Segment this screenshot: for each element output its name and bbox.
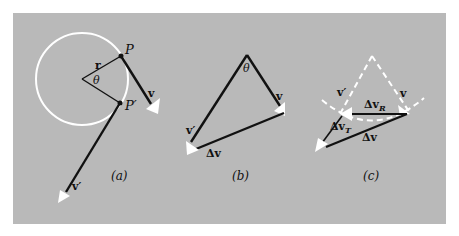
label-P: P [124, 42, 134, 57]
label-P-prime: P′ [124, 98, 137, 113]
vector-v-prime-b [191, 55, 247, 142]
panel-b: θ v v′ Δv (b) [185, 55, 285, 183]
label-theta-b: θ [243, 62, 250, 75]
arrowhead-delta-v-T [315, 138, 328, 152]
label-v-c: v [399, 87, 407, 100]
kinematics-figure: P P′ r θ v v′ (a) θ v v′ Δv (b) [0, 0, 459, 236]
label-theta-a: θ [93, 74, 100, 87]
label-v-a: v [147, 87, 155, 100]
label-v-prime-c: v′ [336, 86, 346, 99]
caption-a: (a) [111, 169, 128, 183]
vector-delta-v-b [196, 113, 284, 149]
panel-c: v′ v ΔvR ΔvT Δv (c) [315, 56, 424, 183]
radius-line-r-prime [82, 79, 120, 103]
velocity-vector-v [121, 56, 151, 104]
arrowhead-v-prime [58, 190, 70, 203]
label-v-prime-a: v′ [71, 180, 81, 193]
caption-c: (c) [363, 169, 379, 183]
label-r: r [95, 59, 101, 72]
label-delta-v-b: Δv [206, 147, 222, 160]
label-delta-v-R: ΔvR [364, 98, 386, 113]
radius-line-r [82, 56, 121, 79]
label-v-prime-b: v′ [185, 124, 195, 137]
label-v-b: v [275, 90, 283, 103]
caption-b: (b) [232, 169, 249, 183]
label-delta-v-T: ΔvT [330, 120, 352, 135]
label-delta-v-c: Δv [362, 131, 378, 144]
panel-a: P P′ r θ v v′ (a) [36, 33, 160, 203]
